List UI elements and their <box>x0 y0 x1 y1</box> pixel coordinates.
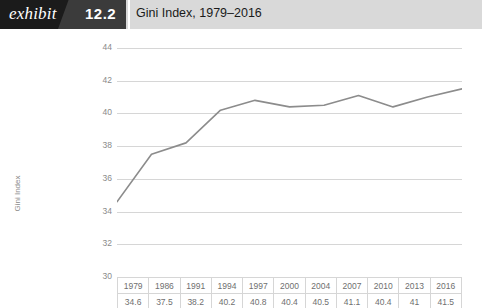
table-cell-year: 2007 <box>336 278 367 294</box>
table-cell-value: 40.5 <box>305 294 336 308</box>
table-row-years: 1979198619911994199720002004200720102013… <box>118 278 462 294</box>
table-cell-year: 2013 <box>399 278 430 294</box>
table-cell-value: 34.6 <box>118 294 149 308</box>
gini-index-line-series <box>117 48 462 277</box>
page-title: Gini Index, 1979–2016 <box>136 6 262 20</box>
y-tick-label-44: 44 <box>88 42 112 52</box>
table-cell-year: 1997 <box>243 278 274 294</box>
table-cell-year: 1986 <box>149 278 180 294</box>
table-cell-year: 2004 <box>305 278 336 294</box>
series-data-table: 1979198619911994199720002004200720102013… <box>117 277 462 308</box>
header-divider <box>128 0 130 29</box>
y-tick-label-42: 42 <box>88 75 112 85</box>
y-tick-label-32: 32 <box>88 238 112 248</box>
table-row-values: 34.637.538.240.240.840.440.541.140.44141… <box>118 294 462 308</box>
y-tick-label-36: 36 <box>88 173 112 183</box>
table-cell-year: 2010 <box>368 278 399 294</box>
table-cell-year: 2016 <box>430 278 461 294</box>
chart-region: Gini Index 3032343638404244 <box>0 29 482 308</box>
table-cell-value: 41.1 <box>336 294 367 308</box>
chart-data-table: Gini Index in US 19791986199119941997200… <box>0 277 482 308</box>
table-cell-year: 1994 <box>211 278 242 294</box>
y-tick-label-38: 38 <box>88 140 112 150</box>
exhibit-number-label: 12.2 <box>85 5 116 22</box>
table-cell-value: 41 <box>399 294 430 308</box>
table-cell-year: 1979 <box>118 278 149 294</box>
table-cell-value: 38.2 <box>180 294 211 308</box>
table-cell-value: 37.5 <box>149 294 180 308</box>
exhibit-word-label: exhibit <box>9 4 57 24</box>
table-cell-value: 40.8 <box>243 294 274 308</box>
table-cell-year: 1991 <box>180 278 211 294</box>
y-tick-label-40: 40 <box>88 107 112 117</box>
table-cell-value: 41.5 <box>430 294 461 308</box>
table-cell-value: 40.2 <box>211 294 242 308</box>
table-cell-value: 40.4 <box>368 294 399 308</box>
y-tick-label-34: 34 <box>88 206 112 216</box>
table-cell-year: 2000 <box>274 278 305 294</box>
table-cell-value: 40.4 <box>274 294 305 308</box>
exhibit-header: exhibit 12.2 Gini Index, 1979–2016 <box>0 0 482 29</box>
y-axis-title: Gini Index <box>13 158 22 230</box>
y-axis-tick-labels: 3032343638404244 <box>86 48 112 277</box>
